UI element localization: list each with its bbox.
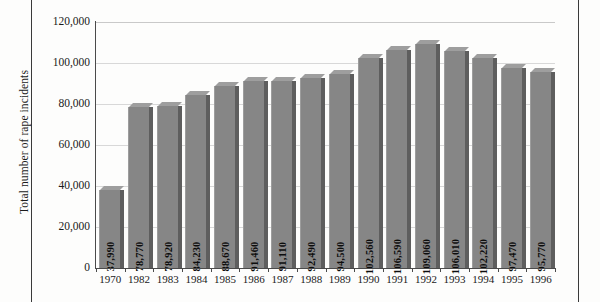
bar-chart-figure: Total number of rape incidents 020,00040… [0,0,600,302]
x-tick-mark [297,268,298,272]
bar[interactable]: 37,990 [99,190,120,268]
x-tick-mark [326,268,327,272]
bar[interactable]: 94,500 [329,74,350,268]
bar-side-face [149,107,153,268]
bar[interactable]: 106,010 [444,51,465,268]
bar-slot: 102,560 [358,22,378,268]
bar-slot: 95,770 [530,22,550,268]
bar-slot: 102,220 [472,22,492,268]
x-tick-mark [412,268,413,272]
bar-side-face [264,81,268,268]
bar-top-face [387,46,411,50]
bar-side-face [436,44,440,268]
bar-side-face [292,81,296,268]
x-tick-mark [239,268,240,272]
x-axis-tick-labels: 1970198219831984198519861987198819891990… [96,272,555,290]
bar-slot: 94,500 [329,22,349,268]
bar[interactable]: 109,060 [415,44,436,268]
bar-side-face [206,95,210,268]
bar-side-face [120,190,124,268]
page-canvas: Total number of rape incidents 020,00040… [0,0,600,302]
bar-slot: 78,920 [157,22,177,268]
y-tick-label: 60,000 [28,139,90,151]
y-tick-label: 120,000 [28,16,90,28]
y-tick-label: 20,000 [28,221,90,233]
bar-side-face [407,50,411,269]
plot-area: 37,99078,77078,92084,23088,67091,46091,1… [96,22,555,268]
x-tick-mark [498,268,499,272]
x-tick-mark [469,268,470,272]
bar-top-face [502,64,526,68]
bar[interactable]: 84,230 [185,95,206,268]
bar-slot: 91,110 [271,22,291,268]
y-tick-label: 0 [28,262,90,274]
bar-slot: 97,470 [501,22,521,268]
bar-slot: 88,670 [214,22,234,268]
bar-top-face [129,103,153,107]
x-tick-mark [383,268,384,272]
x-tick-mark [125,268,126,272]
bar-side-face [321,78,325,268]
bar-top-face [531,68,555,72]
bar-slot: 106,590 [386,22,406,268]
bar-slot: 92,490 [300,22,320,268]
bar-slot: 109,060 [415,22,435,268]
bar[interactable]: 106,590 [386,50,407,269]
x-tick-mark [354,268,355,272]
bar-side-face [522,68,526,268]
x-tick-mark [526,268,527,272]
bar-side-face [235,86,239,268]
bar-side-face [493,58,497,268]
bar-slot: 91,460 [243,22,263,268]
y-axis-tick-labels: 020,00040,00060,00080,000100,000120,000 [22,0,90,302]
bar-side-face [465,51,469,268]
bar-top-face [244,77,268,81]
bar-side-face [551,72,555,268]
x-tick-mark [268,268,269,272]
y-tick-label: 100,000 [28,57,90,69]
bar-top-face [359,54,383,58]
x-tick-mark [211,268,212,272]
bar-value-label: 91,110 [277,242,288,272]
x-tick-mark [96,268,97,272]
bar-top-face [330,70,354,74]
bar-slot: 78,770 [128,22,148,268]
bar[interactable]: 78,770 [128,107,149,268]
bar[interactable]: 102,560 [358,58,379,268]
bar-top-face [158,102,182,106]
x-tick-mark [555,268,556,272]
bar[interactable]: 91,460 [243,81,264,268]
bar[interactable]: 102,220 [472,58,493,268]
x-tick-mark [153,268,154,272]
y-tick-label: 80,000 [28,98,90,110]
bar-slot: 84,230 [185,22,205,268]
y-axis-line [95,21,96,269]
bar[interactable]: 91,110 [271,81,292,268]
bar-side-face [178,106,182,268]
bar[interactable]: 78,920 [157,106,178,268]
x-tick-label: 1996 [523,272,558,286]
bar-side-face [350,74,354,268]
bar-slot: 37,990 [99,22,119,268]
bar-slot: 106,010 [444,22,464,268]
x-tick-mark [440,268,441,272]
y-tick-label: 40,000 [28,180,90,192]
bar-side-face [379,58,383,268]
bar-top-face [445,47,469,51]
x-tick-mark [182,268,183,272]
bar[interactable]: 88,670 [214,86,235,268]
bar[interactable]: 95,770 [530,72,551,268]
bar[interactable]: 92,490 [300,78,321,268]
bar[interactable]: 97,470 [501,68,522,268]
